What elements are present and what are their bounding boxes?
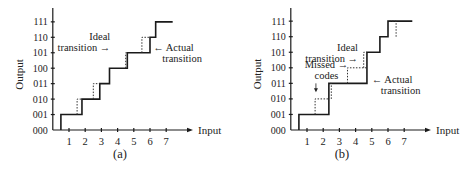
annotation-label: ← Actualtransition [153,42,202,64]
ideal-transition-line [315,99,329,115]
x-tick-label: 3 [337,136,342,147]
x-tick-label: 6 [147,136,152,147]
x-tick-label: 3 [99,136,104,147]
y-axis-label: Output [13,59,25,90]
y-tick-label: 001 [33,109,48,120]
x-axis-label: Input [198,124,221,136]
y-tick-label: 100 [33,63,48,74]
panel-a: 1234567000001010011100101110111InputOutp… [13,8,221,161]
y-tick-label: 000 [271,125,286,136]
x-tick-label: 5 [131,136,136,147]
ideal-transition-line [93,84,99,99]
y-tick-label: 010 [33,94,48,105]
y-tick-label: 101 [33,47,48,58]
y-tick-label: 110 [33,32,48,43]
annotation-label: Missed →codes [305,59,348,81]
y-tick-label: 111 [34,16,48,27]
y-tick-label: 011 [271,78,286,89]
annotation-label: ← Actualtransition [372,74,421,96]
x-tick-label: 2 [83,136,88,147]
x-tick-label: 5 [369,136,374,147]
x-tick-label: 6 [385,136,390,147]
x-tick-label: 7 [164,136,169,147]
x-axis-label: Input [436,124,459,136]
x-tick-label: 1 [304,136,309,147]
y-tick-label: 100 [271,62,286,73]
y-tick-label: 110 [271,31,286,42]
ideal-transition-line [348,68,367,84]
annotation-label: Idealtransition → [58,31,111,53]
x-tick-label: 2 [321,136,326,147]
y-tick-label: 010 [271,93,286,104]
x-tick-label: 7 [402,136,407,147]
ideal-transition-line [142,37,150,52]
actual-transfer-curve [61,22,173,130]
y-tick-label: 101 [271,47,286,58]
x-axis-arrow-icon [187,128,193,132]
x-axis-arrow-icon [425,128,431,132]
y-tick-label: 001 [271,109,286,120]
y-tick-label: 111 [272,16,286,27]
panel-caption: (a) [113,147,127,161]
y-axis-label: Output [251,59,263,90]
figure: 1234567000001010011100101110111InputOutp… [0,0,464,170]
panel-b: 1234567000001010011100101110111InputOutp… [251,8,459,161]
y-tick-label: 011 [33,78,48,89]
panel-caption: (b) [335,147,350,161]
x-tick-label: 4 [115,136,121,147]
x-tick-label: 4 [353,136,359,147]
x-tick-label: 1 [66,136,71,147]
ideal-transition-line [388,21,396,37]
y-tick-label: 000 [33,125,48,136]
